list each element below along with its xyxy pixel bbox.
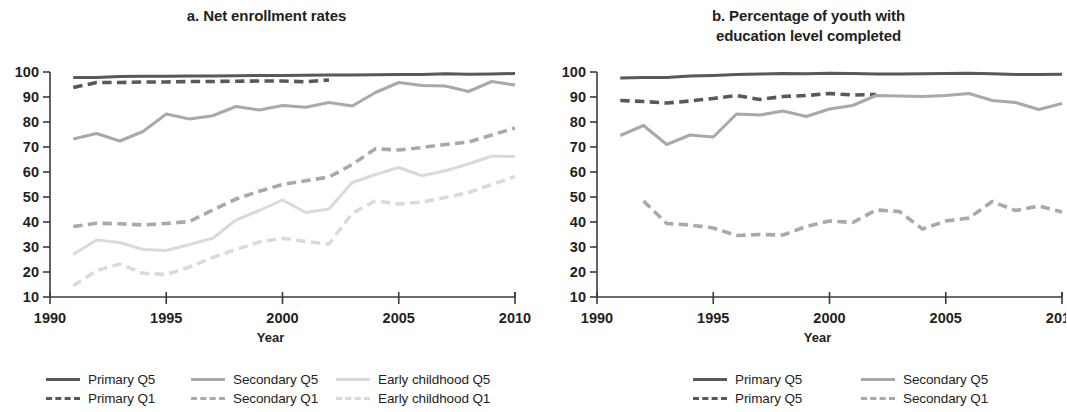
legend-swatch-dashed-icon: [336, 397, 370, 400]
y-tick-label: 30: [23, 239, 39, 255]
legend-item[interactable]: Primary Q1: [46, 391, 191, 406]
legend-item[interactable]: Primary Q5: [46, 372, 191, 387]
series-line-4: [73, 156, 515, 255]
legend-swatch-solid-icon: [861, 378, 895, 381]
x-tick-label: 1990: [34, 310, 66, 326]
y-tick-label: 40: [570, 214, 586, 230]
legend-label: Early childhood Q5: [378, 372, 490, 387]
legend-row: Primary Q5Secondary Q5Early childhood Q5: [0, 372, 533, 387]
legend-row: Primary Q1Secondary Q1Early childhood Q1: [0, 391, 533, 406]
legend-item[interactable]: Early childhood Q1: [336, 391, 511, 406]
panel-b-legend: Primary Q5Secondary Q5Primary Q5Secondar…: [533, 372, 1066, 406]
panel-b-svg: 1020304050607080901001990199520002005201…: [533, 52, 1066, 352]
panel-a-x-axis-label: Year: [4, 330, 537, 345]
legend-label: Early childhood Q1: [378, 391, 490, 406]
series-line-3: [644, 201, 1063, 236]
y-tick-label: 10: [570, 289, 586, 305]
panel-b-title: b. Percentage of youth with education le…: [533, 6, 1066, 46]
legend-item[interactable]: Secondary Q5: [861, 372, 1029, 387]
x-tick-label: 2000: [266, 310, 298, 326]
panel-b-title-line2: education level completed: [551, 26, 1066, 46]
y-tick-label: 80: [23, 114, 39, 130]
legend-swatch-solid-icon: [693, 378, 727, 381]
y-tick-label: 40: [23, 214, 39, 230]
x-tick-label: 2000: [813, 310, 845, 326]
series-line-1: [620, 94, 876, 104]
legend-swatch-solid-icon: [46, 378, 80, 381]
legend-label: Secondary Q1: [233, 391, 318, 406]
series-line-2: [73, 82, 515, 142]
x-tick-label: 1990: [581, 310, 613, 326]
legend-swatch-dashed-icon: [46, 397, 80, 400]
y-tick-label: 50: [23, 189, 39, 205]
y-tick-label: 20: [23, 264, 39, 280]
legend-swatch-dashed-icon: [191, 397, 225, 400]
legend-label: Secondary Q5: [233, 372, 318, 387]
legend-label: Secondary Q1: [903, 391, 988, 406]
y-tick-label: 70: [23, 139, 39, 155]
y-tick-label: 90: [23, 89, 39, 105]
y-tick-label: 70: [570, 139, 586, 155]
chart-panel-b: b. Percentage of youth with education le…: [533, 0, 1066, 412]
legend-label: Primary Q1: [88, 391, 155, 406]
legend-swatch-dashed-icon: [693, 397, 727, 400]
y-tick-label: 20: [570, 264, 586, 280]
legend-item[interactable]: Early childhood Q5: [336, 372, 511, 387]
legend-item[interactable]: Secondary Q5: [191, 372, 336, 387]
series-line-1: [73, 80, 329, 88]
y-tick-label: 100: [562, 64, 586, 80]
x-tick-label: 2005: [383, 310, 415, 326]
figure-container: a. Net enrollment rates 1020304050607080…: [0, 0, 1067, 412]
y-tick-label: 100: [15, 64, 39, 80]
legend-swatch-solid-icon: [336, 378, 370, 381]
panel-b-plot: 1020304050607080901001990199520002005201…: [533, 52, 1066, 352]
panel-a-legend: Primary Q5Secondary Q5Early childhood Q5…: [0, 372, 533, 406]
legend-label: Primary Q5: [735, 391, 802, 406]
legend-label: Primary Q5: [735, 372, 802, 387]
x-tick-label: 2005: [930, 310, 962, 326]
x-tick-label: 2010: [499, 310, 531, 326]
y-tick-label: 90: [570, 89, 586, 105]
series-line-5: [73, 177, 515, 286]
panel-b-title-line1: b. Percentage of youth with: [551, 6, 1066, 26]
legend-label: Secondary Q5: [903, 372, 988, 387]
legend-item[interactable]: Secondary Q1: [861, 391, 1029, 406]
panel-b-x-axis-label: Year: [551, 330, 1067, 345]
legend-item[interactable]: Secondary Q1: [191, 391, 336, 406]
series-line-0: [620, 73, 1062, 78]
legend-label: Primary Q5: [88, 372, 155, 387]
panel-a-svg: 1020304050607080901001990199520002005201…: [0, 52, 533, 352]
x-tick-label: 1995: [697, 310, 729, 326]
chart-panel-a: a. Net enrollment rates 1020304050607080…: [0, 0, 533, 412]
panel-a-plot: 1020304050607080901001990199520002005201…: [0, 52, 533, 352]
legend-item[interactable]: Primary Q5: [693, 391, 861, 406]
y-tick-label: 60: [570, 164, 586, 180]
legend-swatch-dashed-icon: [861, 397, 895, 400]
x-tick-label: 1995: [150, 310, 182, 326]
y-tick-label: 10: [23, 289, 39, 305]
y-tick-label: 80: [570, 114, 586, 130]
legend-item[interactable]: Primary Q5: [693, 372, 861, 387]
legend-swatch-solid-icon: [191, 378, 225, 381]
x-tick-label: 2010: [1046, 310, 1066, 326]
y-tick-label: 30: [570, 239, 586, 255]
y-tick-label: 60: [23, 164, 39, 180]
series-line-3: [73, 128, 515, 227]
y-tick-label: 50: [570, 189, 586, 205]
panel-a-title: a. Net enrollment rates: [0, 6, 533, 26]
series-line-0: [73, 74, 515, 78]
legend-row: Primary Q5Secondary Q5: [533, 372, 1066, 387]
legend-row: Primary Q5Secondary Q1: [533, 391, 1066, 406]
